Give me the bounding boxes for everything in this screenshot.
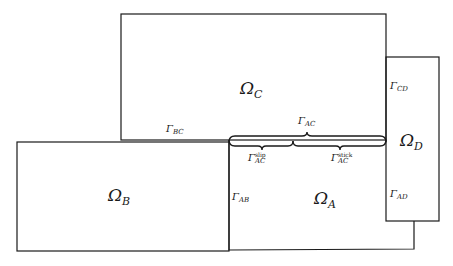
domain-c-boundary <box>121 14 386 140</box>
label-gamma-ab: ΓAB <box>232 192 249 204</box>
label-omega-b: ΩB <box>108 187 130 207</box>
brace-gamma-ac-slip <box>229 140 293 150</box>
label-omega-d: ΩD <box>400 132 423 152</box>
label-gamma-cd: ΓCD <box>390 81 408 93</box>
brace-gamma-ac-stick <box>293 140 386 150</box>
label-omega-a: ΩA <box>314 190 336 210</box>
label-gamma-ad: ΓAD <box>390 189 408 201</box>
label-gamma-ac-slip: ΓslipAC <box>248 152 266 165</box>
label-omega-c: ΩC <box>240 80 263 100</box>
label-gamma-ac: ΓAC <box>298 116 315 128</box>
domain-diagram <box>0 0 453 266</box>
label-gamma-ac-stick: ΓstickAC <box>331 152 352 165</box>
label-gamma-bc: ΓBC <box>166 124 184 136</box>
